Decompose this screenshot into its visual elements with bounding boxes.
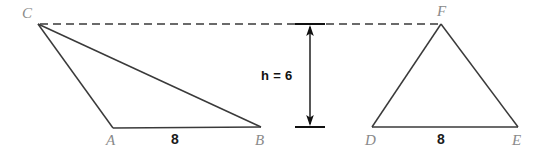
segment-FE	[441, 24, 518, 127]
geometry-figure: C A B F D E 8 8 h = 6	[0, 0, 544, 161]
vertex-label-D: D	[365, 133, 376, 148]
triangle-ABC-shape	[38, 24, 261, 128]
vertex-label-A: A	[106, 133, 115, 148]
vertex-label-C: C	[22, 6, 32, 21]
triangle-DEF-shape	[372, 24, 518, 127]
base-length-label-AB: 8	[171, 132, 179, 146]
vertex-label-F: F	[437, 4, 446, 19]
segment-DF	[372, 24, 441, 127]
segment-CA	[38, 24, 113, 128]
base-length-label-DE: 8	[437, 132, 445, 146]
height-dimension	[295, 24, 325, 127]
vertex-label-E: E	[512, 133, 521, 148]
height-measure-label: h = 6	[261, 69, 293, 82]
segment-AB	[113, 127, 261, 128]
segment-CB	[38, 24, 261, 127]
vertex-label-B: B	[255, 133, 264, 148]
